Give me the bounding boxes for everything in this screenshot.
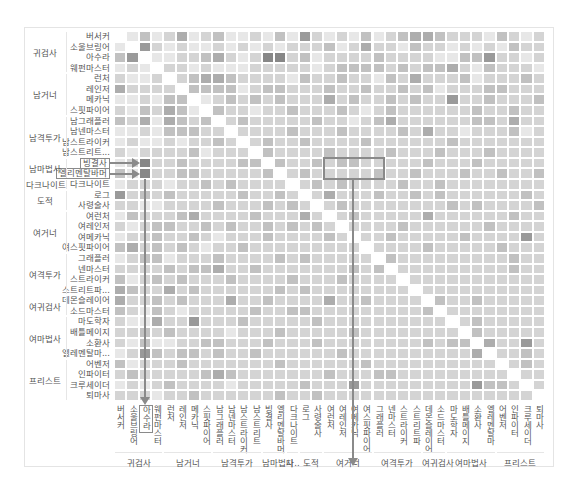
heatmap-cell (483, 359, 495, 370)
heatmap-cell (323, 264, 335, 275)
heatmap-cell (274, 390, 286, 401)
heatmap-cell (299, 190, 311, 201)
heatmap-cell (139, 84, 151, 95)
heatmap-cell (114, 94, 126, 105)
heatmap-cell (212, 380, 224, 391)
heatmap-cell (434, 264, 446, 275)
heatmap-cell (409, 390, 421, 401)
heatmap-cell (151, 338, 163, 349)
heatmap-cell (311, 242, 323, 253)
heatmap-cell (508, 158, 520, 169)
heatmap-cell (126, 42, 138, 53)
heatmap-cell (508, 221, 520, 232)
heatmap-cell (496, 116, 508, 127)
heatmap-cell (188, 158, 200, 169)
heatmap-cell (434, 94, 446, 105)
heatmap-cell (323, 94, 335, 105)
heatmap-cell (520, 316, 532, 327)
heatmap-cell (385, 42, 397, 53)
heatmap-cell (422, 369, 434, 380)
heatmap-cell (114, 73, 126, 84)
heatmap-cell (151, 380, 163, 391)
heatmap-cell (200, 168, 212, 179)
row-group-label: 여마법사 (26, 332, 64, 344)
heatmap-cell (323, 285, 335, 296)
heatmap-cell (114, 105, 126, 116)
heatmap-cell (533, 221, 545, 232)
heatmap-cell (533, 190, 545, 201)
heatmap-cell (212, 211, 224, 222)
heatmap-cell (520, 63, 532, 74)
heatmap-cell (422, 232, 434, 243)
heatmap-cell (422, 158, 434, 169)
heatmap-cell (323, 221, 335, 232)
heatmap-cell (225, 137, 237, 148)
heatmap-cell (496, 84, 508, 95)
col-label: 스트리트파 (409, 405, 421, 445)
heatmap-cell (434, 52, 446, 63)
heatmap-cell (459, 52, 471, 63)
heatmap-cell (471, 348, 483, 359)
heatmap-cell (262, 126, 274, 137)
heatmap-cell (274, 316, 286, 327)
heatmap-cell (520, 242, 532, 253)
heatmap-cell (446, 137, 458, 148)
heatmap-cell (274, 274, 286, 285)
heatmap-cell (459, 338, 471, 349)
col-label: 여레인저 (336, 405, 348, 437)
heatmap-cell (262, 327, 274, 338)
heatmap-cell (446, 158, 458, 169)
col-label: 마도학자 (446, 405, 458, 437)
row-label: 여레인저 (78, 221, 110, 232)
heatmap-cell (323, 179, 335, 190)
heatmap-cell (225, 73, 237, 84)
heatmap-cell (114, 369, 126, 380)
heatmap-cell (151, 168, 163, 179)
heatmap-cell (323, 295, 335, 306)
heatmap-cell (422, 84, 434, 95)
heatmap-cell (163, 94, 175, 105)
heatmap-cell (225, 306, 237, 317)
heatmap-cell (360, 295, 372, 306)
heatmap-cell (508, 211, 520, 222)
heatmap-cell (373, 63, 385, 74)
row-group-divider (66, 74, 67, 114)
heatmap-cell (471, 327, 483, 338)
heatmap-cell (533, 179, 545, 190)
heatmap-cell (520, 274, 532, 285)
heatmap-cell (163, 158, 175, 169)
heatmap-cell (533, 306, 545, 317)
heatmap-cell (373, 390, 385, 401)
heatmap-cell (262, 31, 274, 42)
heatmap-cell (311, 105, 323, 116)
heatmap-cell (496, 348, 508, 359)
heatmap-cell (262, 242, 274, 253)
heatmap-cell (520, 285, 532, 296)
heatmap-cell (446, 126, 458, 137)
heatmap-cell (533, 147, 545, 158)
heatmap-cell (311, 253, 323, 264)
heatmap-cell (274, 42, 286, 53)
heatmap-cell (520, 84, 532, 95)
heatmap-cell (409, 327, 421, 338)
heatmap-cell (311, 232, 323, 243)
heatmap-cell (311, 348, 323, 359)
heatmap-cell (459, 137, 471, 148)
heatmap-cell (508, 253, 520, 264)
heatmap-cell (126, 211, 138, 222)
row-group-label: 다크나이트 (26, 178, 64, 190)
heatmap-cell (483, 147, 495, 158)
heatmap-cell (409, 126, 421, 137)
heatmap-cell (434, 168, 446, 179)
heatmap-cell (459, 190, 471, 201)
heatmap-cell (533, 63, 545, 74)
heatmap-cell (299, 94, 311, 105)
heatmap-cell (323, 73, 335, 84)
heatmap-cell (200, 253, 212, 264)
heatmap-cell (348, 52, 360, 63)
heatmap-cell (409, 105, 421, 116)
heatmap-cell (471, 84, 483, 95)
heatmap-cell (274, 285, 286, 296)
heatmap-cell (348, 242, 360, 253)
heatmap-cell (483, 211, 495, 222)
